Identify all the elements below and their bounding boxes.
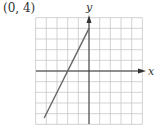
x-axis-label: x [148, 65, 155, 78]
y-axis-label: y [85, 1, 93, 14]
y-axis-arrow-icon [87, 15, 92, 23]
line-series [44, 28, 89, 118]
axes: x y [36, 1, 155, 124]
graph: x y [0, 0, 162, 135]
